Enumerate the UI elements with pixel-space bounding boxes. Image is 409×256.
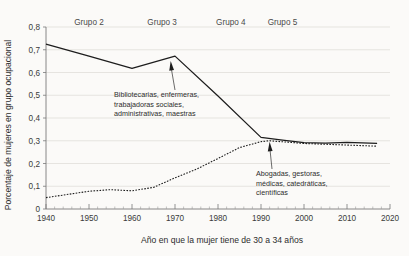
annotation-teaching-nursing-line: trabajadoras sociales,: [114, 100, 184, 109]
x-tick-label: 2020: [381, 214, 400, 223]
x-axis-title: Año en que la mujer tiene de 30 a 34 año…: [141, 235, 303, 245]
y-tick-label: 0,5: [29, 91, 41, 100]
group-label: Grupo 3: [147, 18, 177, 27]
y-axis-title: Porcentaje de mujeres en grupo ocupacion…: [3, 40, 13, 211]
x-tick-label: 2000: [295, 214, 314, 223]
x-tick-label: 1960: [123, 214, 142, 223]
annotation-teaching-nursing-line: Bibliotecarias, enfermeras,: [114, 90, 199, 99]
x-tick-label: 1990: [252, 214, 271, 223]
chart-container: 00,10,20,30,40,50,60,70,8 19401950196019…: [0, 0, 409, 256]
annotation-teaching-nursing-line: administrativas, maestras: [114, 109, 196, 118]
y-tick-label: 0,2: [29, 160, 41, 169]
x-tick-label: 1970: [166, 214, 185, 223]
annotation-professional-line: médicas, catedráticas,: [256, 179, 328, 188]
x-tick-label: 2010: [338, 214, 357, 223]
y-tick-label: 0,1: [29, 182, 41, 191]
group-label: Grupo 2: [74, 18, 104, 27]
x-tick-label: 1950: [80, 214, 99, 223]
y-tick-label: 0,6: [29, 69, 41, 78]
y-tick-label: 0,7: [29, 46, 41, 55]
annotation-professional-line: Abogadas, gestoras,: [256, 169, 322, 178]
group-label: Grupo 4: [216, 18, 246, 27]
x-tick-label: 1940: [37, 214, 56, 223]
y-tick-label: 0,4: [29, 114, 41, 123]
annotation-professional-line: científicas: [256, 188, 288, 197]
x-tick-label: 1980: [209, 214, 228, 223]
occupational-group-line-chart: 00,10,20,30,40,50,60,70,8 19401950196019…: [0, 0, 409, 256]
y-tick-label: 0: [35, 205, 40, 214]
y-tick-label: 0,8: [29, 23, 41, 32]
group-label: Grupo 5: [268, 18, 298, 27]
y-tick-label: 0,3: [29, 137, 41, 146]
